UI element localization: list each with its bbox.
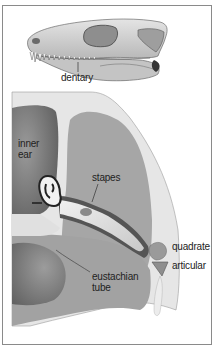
label-eustachian-tube-line1: eustachian bbox=[92, 272, 138, 282]
label-inner-ear-line2: ear bbox=[18, 150, 32, 160]
label-eustachian-tube-line2: tube bbox=[92, 283, 111, 293]
label-dentary: dentary bbox=[61, 73, 93, 83]
label-stapes: stapes bbox=[92, 173, 120, 183]
label-articular: articular bbox=[172, 261, 206, 271]
skull-illustration bbox=[28, 19, 168, 81]
label-quadrate: quadrate bbox=[172, 242, 210, 252]
label-inner-ear-line1: inner bbox=[18, 139, 39, 149]
